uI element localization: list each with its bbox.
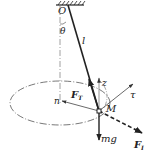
angle-label: θ xyxy=(60,26,66,36)
length-label: l xyxy=(82,35,85,46)
pivot-label: O xyxy=(58,5,66,16)
conical-pendulum-diagram: O θ l FT z τ n M mg FI xyxy=(0,0,157,157)
mass-point-label: M xyxy=(105,103,117,114)
n-axis-label: n xyxy=(54,96,60,106)
tau-axis-label: τ xyxy=(130,89,136,100)
z-axis-label: z xyxy=(101,78,107,88)
tension-force-arrow xyxy=(89,79,99,111)
n-axis-arrow xyxy=(62,101,99,111)
angle-arc xyxy=(60,22,66,24)
tension-label: FT xyxy=(70,89,83,101)
gravity-label: mg xyxy=(101,133,117,144)
inertial-force-label: FI xyxy=(133,139,144,151)
inertial-force-arrow xyxy=(99,111,142,133)
mass-point xyxy=(97,109,101,113)
